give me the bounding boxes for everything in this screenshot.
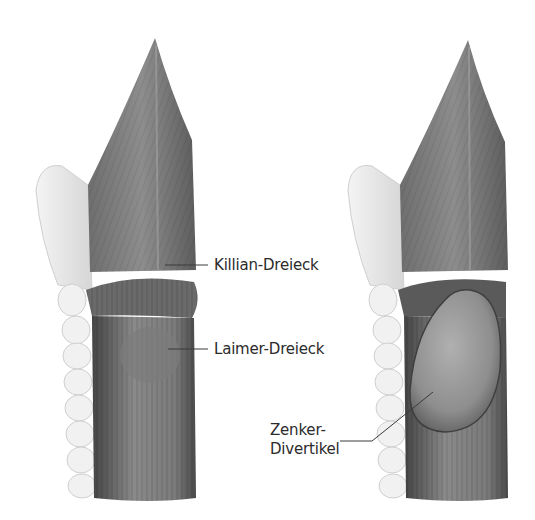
trachea-rings (369, 284, 407, 498)
trachea-rings (58, 284, 96, 498)
thyroid-cartilage (36, 166, 92, 291)
killian-triangle-label: Killian-Dreieck (214, 256, 319, 274)
zenker-diverticulum-label-line1: Zenker- (270, 421, 326, 439)
zenker-diverticulum-label-line2: Divertikel (270, 440, 340, 458)
right-pharynx-figure (348, 40, 508, 501)
laimer-triangle-label: Laimer-Dreieck (214, 340, 324, 358)
thyroid-cartilage (348, 166, 404, 291)
left-pharynx-figure (36, 38, 198, 501)
